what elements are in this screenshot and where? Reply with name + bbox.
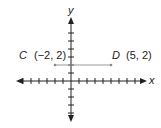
y-axis-label: y: [68, 5, 74, 16]
y-axis: [68, 20, 74, 120]
x-axis-arrow-right: [140, 78, 147, 84]
point-d-coords: (5, 2): [126, 50, 152, 61]
x-axis-arrow-left: [16, 78, 23, 84]
x-axis: [19, 78, 144, 84]
y-axis-arrow-up: [68, 17, 74, 24]
y-axis-arrow-down: [68, 115, 74, 122]
point-c-coords: (−2, 2): [34, 50, 66, 61]
x-axis-label: x: [149, 75, 155, 86]
point-d: [110, 64, 113, 67]
coordinate-plane: [0, 0, 161, 128]
point-c: [54, 64, 57, 67]
point-d-name: D: [112, 50, 120, 61]
point-c-name: C: [19, 50, 27, 61]
